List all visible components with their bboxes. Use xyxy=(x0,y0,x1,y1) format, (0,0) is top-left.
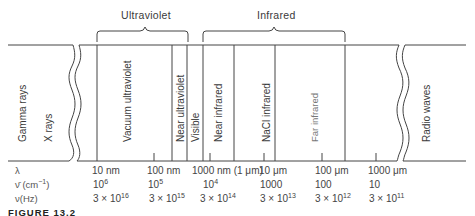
region-x-rays: X rays xyxy=(43,114,54,142)
wavenumber-tick-3: 1000 xyxy=(260,179,282,190)
figure-caption: FIGURE 13.2 xyxy=(8,207,76,216)
row-label-wavelength: λ xyxy=(15,165,20,176)
wavelength-tick-10nm: 10 nm xyxy=(92,165,120,176)
left-break-line-1 xyxy=(69,45,75,161)
frequency-tick-5: 3 × 1011 xyxy=(369,193,404,204)
row-label-wavenumber: ν̄ (cm−1) xyxy=(15,179,49,190)
row-label-frequency: ν(Hz) xyxy=(15,193,38,204)
wavenumber-tick-0: 106 xyxy=(93,179,108,190)
wavenumber-tick-1: 105 xyxy=(148,179,163,190)
wavenumber-tick-5: 10 xyxy=(369,179,380,190)
ultraviolet-group-label: Ultraviolet xyxy=(121,9,171,21)
region-far-infrared: Far infrared xyxy=(309,93,320,142)
wavenumber-tick-4: 100 xyxy=(315,179,332,190)
right-break-line-1 xyxy=(396,45,403,161)
region-near-infrared: Near infrared xyxy=(213,84,224,142)
infrared-group-label: Infrared xyxy=(257,9,296,21)
wavelength-tick-100um: 100 μm xyxy=(315,165,349,176)
frequency-tick-1: 3 × 1015 xyxy=(149,193,185,204)
region-near-ultraviolet: Near ultraviolet xyxy=(175,75,186,142)
frequency-tick-3: 3 × 1013 xyxy=(260,193,296,204)
region-visible: Visible xyxy=(190,113,201,142)
frequency-tick-0: 3 × 1016 xyxy=(93,193,129,204)
wavelength-tick-1000um: 1000 μm xyxy=(368,165,407,176)
wavenumber-tick-2: 104 xyxy=(203,179,218,190)
ultraviolet-brace xyxy=(97,27,188,42)
wavelength-tick-100nm: 100 nm xyxy=(147,165,180,176)
frequency-tick-2: 3 × 1014 xyxy=(200,193,236,204)
region-vacuum-ultraviolet: Vacuum ultraviolet xyxy=(122,60,133,142)
region-nacl-infrared: NaCl infrared xyxy=(261,83,272,142)
frequency-tick-4: 3 × 1012 xyxy=(315,193,351,204)
region-radio-waves: Radio waves xyxy=(421,85,432,142)
spectrum-diagram-lines xyxy=(0,0,475,216)
wavelength-tick-1000nm: 1000 nm (1 μm) xyxy=(192,165,263,176)
wavelength-tick-10um: 10 μm xyxy=(259,165,287,176)
region-gamma-rays: Gamma rays xyxy=(17,85,28,142)
left-break-line-2 xyxy=(75,45,81,161)
infrared-brace xyxy=(203,27,345,42)
right-break-line-2 xyxy=(402,45,409,161)
